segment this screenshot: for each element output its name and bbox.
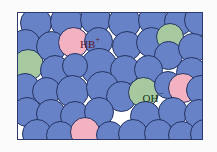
particle-layer: [18, 13, 202, 139]
solution-container-frame: HB+ OH−: [17, 12, 203, 140]
buffer-solution-figure: HB+ OH−: [0, 0, 217, 152]
